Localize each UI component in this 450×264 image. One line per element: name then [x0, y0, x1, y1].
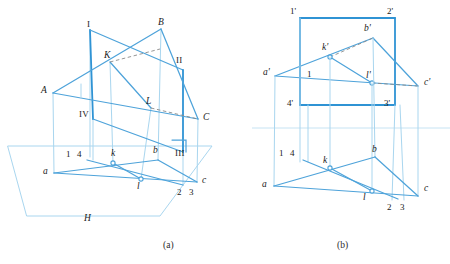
triangle-abc-front-b — [275, 38, 418, 86]
plan-b-a-c — [274, 186, 418, 196]
trace-K-L — [110, 62, 151, 108]
cutting-plane-b — [300, 18, 395, 105]
label-4-plan: 4 — [290, 149, 295, 158]
label-H: H — [84, 214, 91, 224]
caption-b: (b) — [337, 241, 348, 251]
hidden-kp-bp — [330, 38, 373, 57]
label-1-front: 1 — [307, 70, 312, 79]
label-a-plan: a — [262, 180, 267, 190]
plan-a-c — [54, 173, 197, 182]
triangle-ABC-a — [53, 29, 198, 119]
label-1-prime: 1' — [290, 7, 296, 16]
projector-L-l — [141, 108, 151, 179]
label-b: b — [153, 146, 158, 156]
label-b-plan: b — [372, 145, 377, 155]
label-k-prime: k' — [322, 43, 328, 53]
label-a: a — [43, 167, 48, 177]
label-2-plan: 2 — [387, 203, 392, 212]
label-4: 4 — [77, 150, 82, 159]
projector-bp-b — [373, 38, 375, 157]
label-1: 1 — [66, 150, 71, 159]
label-l: l — [137, 182, 140, 192]
projector-lines-a — [53, 29, 198, 185]
label-B: B — [158, 18, 164, 28]
plan-point-k — [111, 161, 115, 165]
label-3-plan: 3 — [400, 203, 405, 212]
label-A: A — [41, 86, 47, 96]
plan-b-c — [158, 160, 197, 182]
label-b-prime: b' — [364, 24, 371, 34]
plan-b-point-l — [370, 189, 374, 193]
projector-B-b — [158, 29, 161, 160]
label-II: II — [176, 56, 182, 65]
label-L: L — [146, 97, 151, 107]
caption-a: (a) — [163, 241, 174, 251]
label-k-plan: k — [323, 156, 327, 166]
projector-A-a — [53, 93, 54, 173]
label-3-prime: 3' — [384, 99, 390, 108]
label-III: III — [175, 149, 185, 158]
projector-3p-3 — [400, 105, 404, 200]
label-I: I — [87, 20, 90, 29]
plan-b-b-c — [375, 157, 418, 196]
figure-root: .ln { stroke:#4ea3da; stroke-width:1.25;… — [0, 0, 450, 264]
side-A-C — [53, 93, 198, 119]
projector-C-c — [197, 119, 198, 182]
label-2-prime: 2' — [387, 7, 393, 16]
plan-b-trace — [303, 160, 398, 199]
cutting-plane-a — [90, 30, 186, 152]
label-c: c — [202, 176, 206, 186]
label-c-prime: c' — [424, 78, 430, 88]
label-2: 2 — [177, 188, 182, 197]
label-3: 3 — [189, 188, 194, 197]
triangle-abc-plan-b — [274, 157, 418, 199]
diagram-b-group — [252, 18, 450, 200]
side-A-B — [53, 29, 161, 93]
label-4-prime: 4' — [287, 99, 293, 108]
label-IV: IV — [79, 110, 89, 119]
label-c-plan: c — [424, 184, 428, 194]
label-a-prime: a' — [263, 68, 270, 78]
figure-canvas: .ln { stroke:#4ea3da; stroke-width:1.25;… — [0, 0, 450, 264]
label-1-plan: 1 — [279, 149, 284, 158]
label-K: K — [104, 51, 110, 61]
side-B-C — [161, 29, 198, 119]
projector-lines-b — [274, 18, 418, 200]
plan-abc-a — [54, 160, 197, 185]
edge-IV-III — [93, 119, 183, 152]
projector-2p-2 — [392, 105, 395, 200]
label-l-plan: l — [363, 193, 366, 203]
projector-ap-a — [274, 76, 275, 186]
plan-b-point-k — [328, 166, 332, 170]
plan-trace-14-23 — [87, 160, 183, 185]
label-C: C — [203, 113, 209, 123]
label-k: k — [111, 149, 115, 159]
label-l-prime: l' — [366, 71, 371, 81]
